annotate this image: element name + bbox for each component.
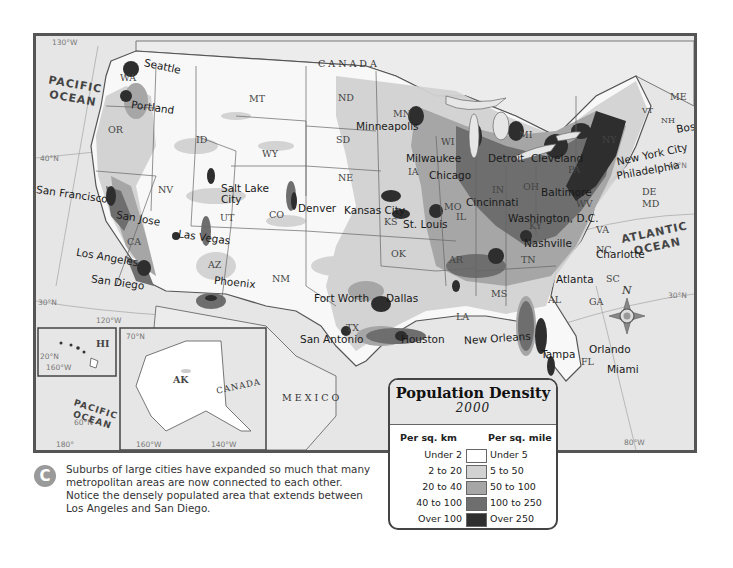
ak-lon-160w-label: 160°W [136, 440, 161, 449]
lon-120w-label: 120°W [96, 316, 121, 325]
state-label-tx: TX [346, 322, 359, 333]
city-label-cleveland: Cleveland [531, 152, 583, 164]
population-density-map: 130°W 40°N 30°N 120°W 40°N 30°N 80°W 20°… [33, 33, 697, 453]
state-label-or: OR [108, 124, 123, 135]
city-label-atlanta: Atlanta [556, 273, 594, 285]
state-label-mt: MT [249, 93, 265, 104]
lon-130w-label: 130°W [52, 38, 77, 47]
ak-lon-180-label: 180° [56, 440, 74, 449]
legend-km-value: Over 100 [418, 513, 462, 524]
legend-mile-value: Under 5 [490, 449, 528, 460]
state-label-wi: WI [441, 136, 455, 147]
state-label-de: DE [642, 186, 657, 197]
city-label-washington-dc: Washington, D.C. [508, 212, 598, 224]
city-label-fort-worth: Fort Worth [314, 292, 369, 304]
city-label-st-louis: St. Louis [403, 218, 448, 230]
city-label-san-antonio: San Antonio [300, 333, 363, 345]
legend-km-value: 2 to 20 [428, 465, 462, 476]
state-label-ok: OK [391, 248, 406, 259]
legend-header: Population Density 2000 [390, 380, 556, 425]
country-label-mexico: MEXICO [282, 392, 342, 403]
state-label-al: AL [548, 294, 561, 305]
lat-30n-west-label: 30°N [38, 298, 57, 307]
city-label-dallas: Dallas [386, 292, 418, 304]
state-label-in: IN [492, 184, 504, 195]
legend-mile-value: 50 to 100 [490, 481, 536, 492]
ak-lat-70n-label: 70°N [126, 332, 145, 341]
state-label-nd: ND [338, 92, 354, 103]
city-label-salt-lake-city: Salt Lake City [221, 183, 271, 205]
state-label-hi: HI [96, 338, 109, 349]
country-label-canada: CANADA [318, 58, 380, 69]
caption-badge-icon: C [34, 465, 56, 487]
state-label-la: LA [456, 311, 469, 322]
state-label-ks: KS [384, 216, 398, 227]
legend-km-value: 40 to 100 [416, 497, 462, 508]
hi-lat-20n-label: 20°N [40, 352, 59, 361]
state-label-ak: AK [173, 374, 189, 385]
city-label-denver: Denver [298, 202, 336, 214]
state-label-ar: AR [449, 254, 463, 265]
state-label-sc: SC [606, 273, 620, 284]
state-label-fl: FL [581, 356, 594, 367]
hi-lon-160w-label: 160°W [46, 363, 71, 372]
legend: Population Density 2000 Per sq. km Per s… [388, 378, 558, 530]
state-label-ny: NY [602, 134, 617, 145]
state-label-ga: GA [589, 296, 603, 307]
legend-swatch-100-to-250 [466, 497, 487, 511]
state-label-me: ME [670, 91, 687, 102]
legend-mile-value: 100 to 250 [490, 497, 542, 508]
state-label-ca: CA [127, 236, 141, 247]
state-label-nh: NH [661, 116, 675, 125]
city-label-baltimore: Baltimore [541, 186, 592, 198]
compass-rose-icon [609, 298, 645, 334]
legend-row: 2 to 20 5 to 50 [390, 464, 558, 480]
lat-40n-west-label: 40°N [40, 154, 59, 163]
state-label-az: AZ [208, 259, 221, 270]
city-label-houston: Houston [401, 333, 445, 345]
city-label-cincinnati: Cincinnati [466, 196, 518, 208]
state-label-ia: IA [408, 166, 419, 177]
state-label-pa: PA [568, 164, 580, 175]
city-label-kansas-city: Kansas City [344, 204, 405, 216]
city-label-minneapolis: Minneapolis [356, 120, 419, 132]
legend-swatch-over-250 [466, 513, 487, 527]
state-label-wa: WA [120, 72, 136, 83]
state-label-wv: WV [576, 198, 593, 209]
state-label-md: MD [642, 198, 659, 209]
city-label-charlotte: Charlotte [596, 248, 645, 260]
legend-mile-value: 5 to 50 [490, 465, 524, 476]
city-label-chicago: Chicago [429, 169, 471, 181]
state-label-sd: SD [336, 134, 350, 145]
state-label-nv: NV [158, 184, 173, 195]
legend-swatch-5-to-50 [466, 465, 487, 479]
state-label-id: ID [196, 134, 207, 145]
legend-year: 2000 [390, 401, 556, 415]
lat-30n-east-label: 30°N [668, 291, 687, 300]
caption-text: Suburbs of large cities have expanded so… [66, 463, 376, 515]
legend-col-mile: Per sq. mile [488, 432, 552, 443]
city-label-detroit: Detroit [488, 152, 524, 164]
legend-row: 40 to 100 100 to 250 [390, 496, 558, 512]
lon-80w-label: 80°W [624, 438, 645, 447]
legend-km-value: 20 to 40 [422, 481, 462, 492]
state-label-oh: OH [523, 181, 539, 192]
state-label-va: VA [596, 224, 609, 235]
legend-title: Population Density [390, 380, 556, 401]
city-label-tampa: Tampa [541, 348, 575, 360]
state-label-vt: VT [642, 106, 653, 115]
legend-row: 20 to 40 50 to 100 [390, 480, 558, 496]
legend-swatch-50-to-100 [466, 481, 487, 495]
state-label-ms: MS [491, 288, 507, 299]
city-label-milwaukee: Milwaukee [406, 152, 461, 164]
ak-lon-140w-label: 140°W [211, 440, 236, 449]
legend-col-km: Per sq. km [400, 432, 457, 443]
legend-mile-value: Over 250 [490, 513, 534, 524]
legend-row: Under 2 Under 5 [390, 448, 558, 464]
state-label-mn: MN [393, 108, 411, 119]
state-label-ut: UT [220, 212, 234, 223]
state-label-mi: MI [519, 129, 532, 140]
state-label-tn: TN [521, 254, 536, 265]
state-label-nm: NM [272, 273, 290, 284]
legend-row: Over 100 Over 250 [390, 512, 558, 528]
